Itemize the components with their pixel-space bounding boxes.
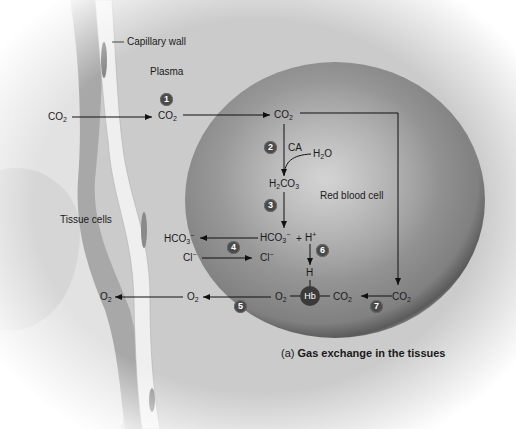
o2-tissue: O2	[100, 292, 112, 302]
label-red-blood-cell: Red blood cell	[320, 191, 383, 201]
h2o: H2O	[313, 149, 332, 159]
step-badge-1: 1	[160, 93, 173, 106]
co2-right: CO2	[392, 292, 411, 302]
figure-caption: (a) Gas exchange in the tissues	[281, 347, 445, 359]
o2-plasma: O2	[187, 292, 199, 302]
label-tissue-cells: Tissue cells	[60, 215, 112, 225]
co2-tissue: CO2	[48, 112, 67, 122]
step-badge-4: 4	[227, 241, 240, 254]
step-badge-3: 3	[264, 199, 277, 212]
cl-rbc: Cl−	[260, 253, 274, 263]
enzyme-ca: CA	[288, 143, 302, 153]
h-plus: H+	[305, 233, 316, 243]
co2-rbc: CO2	[274, 110, 293, 120]
plus-sign: +	[296, 234, 302, 244]
co2-plasma: CO2	[158, 111, 177, 121]
step-badge-5: 5	[234, 300, 247, 313]
label-capillary-wall: Capillary wall	[127, 37, 186, 47]
step-badge-6: 6	[316, 244, 329, 257]
o2-hb: O2	[275, 292, 287, 302]
hemoglobin: Hb	[300, 286, 320, 306]
hco3-plasma: HCO3−	[164, 234, 194, 244]
co2-hb: CO2	[333, 292, 352, 302]
gas-exchange-diagram: Capillary wall Plasma Tissue cells Red b…	[0, 0, 516, 429]
label-plasma: Plasma	[150, 67, 183, 77]
h-bound: H	[306, 268, 313, 278]
cl-plasma: Cl−	[183, 253, 197, 263]
h2co3: H2CO3	[269, 179, 299, 189]
hco3-rbc: HCO3−	[260, 233, 290, 243]
step-badge-2: 2	[264, 141, 277, 154]
step-badge-7: 7	[370, 300, 383, 313]
